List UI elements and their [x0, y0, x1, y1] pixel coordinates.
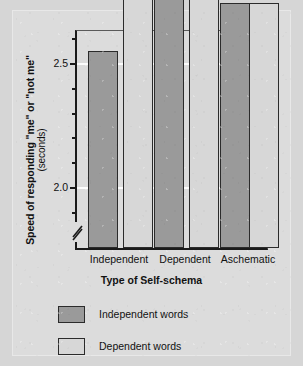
x-tick-label-dependent: Dependent: [159, 253, 210, 265]
bar-group-independent: [88, 0, 153, 248]
y-tick-minor-2-6: [72, 38, 77, 40]
legend-item-dependent-words[interactable]: Dependent words: [58, 334, 188, 358]
bar-dependent-dependent-words[interactable]: [189, 0, 219, 248]
bar-dependent-independent-words[interactable]: [154, 0, 184, 248]
x-tick-label-independent: Independent: [90, 253, 148, 265]
y-tick-label-2-0: 2.0: [53, 181, 68, 193]
y-tick-minor-1-9: [72, 212, 77, 214]
bar-group-aschematic: [220, 3, 279, 248]
bar-independent-independent-words[interactable]: [88, 51, 118, 248]
legend-swatch-dependent-words: [58, 338, 85, 355]
y-axis-title-units: (seconds): [36, 129, 47, 172]
figure-panel: Speed of responding "me" or "not me" (se…: [12, 10, 291, 356]
y-tick-minor-2-1: [72, 162, 77, 164]
y-tick-minor-2-2: [72, 137, 77, 139]
legend-label-independent-words: Independent words: [99, 308, 188, 320]
x-axis-title: Type of Self-schema: [12, 274, 291, 286]
y-tick-2-0: [70, 187, 77, 189]
legend-swatch-independent-words: [58, 306, 85, 323]
legend-item-independent-words[interactable]: Independent words: [58, 302, 188, 326]
y-axis-title: Speed of responding "me" or "not me" (se…: [19, 35, 53, 265]
x-tick-label-aschematic: Aschematic: [221, 253, 275, 265]
y-tick-label-2-5: 2.5: [53, 57, 68, 69]
y-tick-2-5: [70, 63, 77, 65]
bar-aschematic-independent-words[interactable]: [220, 3, 250, 248]
legend-label-dependent-words: Dependent words: [99, 340, 181, 352]
chart-legend: Independent words Dependent words: [58, 302, 188, 366]
plot-area: 2.5 2.0: [75, 30, 268, 250]
bar-aschematic-dependent-words[interactable]: [249, 3, 279, 248]
x-axis-tick-labels: Independent Dependent Aschematic: [75, 253, 268, 269]
bar-independent-dependent-words[interactable]: [123, 0, 153, 248]
y-axis-title-main: Speed of responding "me" or "not me": [25, 55, 37, 245]
axis-break-icon: [71, 222, 85, 242]
y-tick-minor-2-3: [72, 113, 77, 115]
y-tick-minor-2-4: [72, 88, 77, 90]
bar-group-dependent: [154, 0, 219, 248]
